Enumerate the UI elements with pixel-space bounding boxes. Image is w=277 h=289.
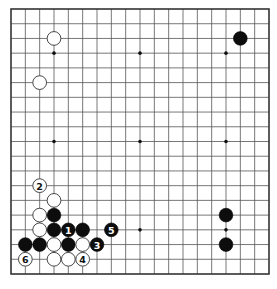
black-stone xyxy=(219,238,233,252)
white-stone xyxy=(47,252,61,266)
black-stone-circle xyxy=(33,238,47,252)
white-stone-circle xyxy=(47,194,61,208)
white-stone-circle xyxy=(47,252,61,266)
black-stone xyxy=(47,223,61,237)
black-stone-circle xyxy=(47,208,61,222)
white-stone xyxy=(33,223,47,237)
black-stone xyxy=(47,208,61,222)
black-stone xyxy=(76,223,90,237)
white-stone-circle xyxy=(61,252,75,266)
black-stone-circle xyxy=(76,223,90,237)
go-board-diagram: 215364 xyxy=(0,0,277,289)
move-number-label: 6 xyxy=(22,254,29,265)
white-stone xyxy=(47,238,61,252)
white-stone-circle xyxy=(76,238,90,252)
star-point xyxy=(138,140,142,144)
go-board: 215364 xyxy=(0,0,277,289)
black-stone: 5 xyxy=(104,223,118,237)
white-stone-circle xyxy=(33,76,47,90)
white-stone-circle xyxy=(33,223,47,237)
star-point xyxy=(224,228,228,232)
star-point xyxy=(52,51,56,55)
white-stone: 6 xyxy=(18,252,32,266)
black-stone xyxy=(61,238,75,252)
black-stone-circle xyxy=(18,238,32,252)
white-stone xyxy=(47,32,61,46)
black-stone xyxy=(233,32,247,46)
star-point xyxy=(224,51,228,55)
white-stone-circle xyxy=(33,208,47,222)
white-stone: 4 xyxy=(76,252,90,266)
white-stone-circle xyxy=(47,238,61,252)
stones-layer: 215364 xyxy=(18,32,247,267)
white-stone xyxy=(33,208,47,222)
white-stone xyxy=(61,252,75,266)
star-point xyxy=(138,228,142,232)
star-point xyxy=(52,140,56,144)
black-stone-circle xyxy=(233,32,247,46)
move-number-label: 5 xyxy=(108,225,115,236)
white-stone: 2 xyxy=(33,179,47,193)
black-stone-circle xyxy=(61,238,75,252)
white-stone xyxy=(76,238,90,252)
white-stone xyxy=(47,194,61,208)
black-stone-circle xyxy=(219,208,233,222)
black-stone: 1 xyxy=(61,223,75,237)
black-stone-circle xyxy=(219,238,233,252)
black-stone-circle xyxy=(47,223,61,237)
move-number-label: 3 xyxy=(94,240,101,251)
move-number-label: 1 xyxy=(65,225,72,236)
white-stone xyxy=(33,76,47,90)
star-point xyxy=(138,51,142,55)
move-number-label: 2 xyxy=(36,181,43,192)
star-point xyxy=(224,140,228,144)
black-stone xyxy=(33,238,47,252)
black-stone: 3 xyxy=(90,238,104,252)
black-stone xyxy=(219,208,233,222)
white-stone-circle xyxy=(47,32,61,46)
move-number-label: 4 xyxy=(79,254,86,265)
black-stone xyxy=(18,238,32,252)
